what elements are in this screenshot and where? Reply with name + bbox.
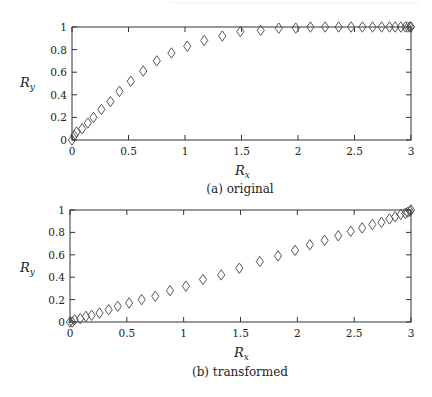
diamond-marker-icon [84,118,91,128]
y-tick-label: 0.2 [48,294,65,306]
plot-b-frame [70,210,411,322]
diamond-marker-icon [236,263,243,273]
figure: 00.511.522.53 00.20.40.60.81 Ry Rx (a) o… [0,0,432,397]
x-tick-label: 0.5 [120,145,137,157]
x-tick-label: 3 [408,145,415,157]
diamond-marker-icon [256,256,263,266]
diamond-marker-icon [274,251,281,261]
y-tick-label: 0.2 [50,111,67,123]
y-tick-label: 0 [58,316,65,328]
plot-b-markers [66,205,414,327]
plot-b-x-ticks: 00.511.522.53 [67,210,415,339]
x-tick-label: 1.5 [232,327,249,339]
y-tick-label: 0.8 [50,44,67,56]
diamond-marker-icon [184,41,191,51]
diamond-marker-icon [116,86,123,96]
diamond-marker-icon [182,281,189,291]
diamond-marker-icon [369,219,376,229]
diamond-marker-icon [201,35,208,45]
x-tick-label: 3 [408,327,415,339]
plot-a-x-ticks: 00.511.522.53 [69,27,415,157]
plot-b-caption: (b) transformed [192,365,288,379]
y-tick-label: 1 [58,204,65,216]
y-tick-label: 0.4 [50,89,67,101]
x-tick-label: 2.5 [346,327,363,339]
diamond-marker-icon [321,235,328,245]
diamond-marker-icon [359,223,366,233]
y-tick-label: 0.6 [50,66,67,78]
x-tick-label: 1 [182,145,189,157]
diamond-marker-icon [140,66,147,76]
x-tick-label: 1.5 [233,145,250,157]
diamond-marker-icon [114,301,121,311]
plot-a-y-ticks: 00.20.40.60.81 [50,21,411,146]
x-tick-label: 1 [180,327,187,339]
plot-b-y-axis-label: Ry [19,260,36,277]
x-tick-label: 0.5 [118,327,135,339]
diamond-marker-icon [153,56,160,66]
plot-a-markers [68,22,414,145]
x-tick-label: 2.5 [346,145,363,157]
x-tick-label: 2 [294,327,301,339]
plot-b-y-ticks: 00.20.40.60.81 [48,204,411,328]
plot-b: 00.511.522.53 00.20.40.60.81 Ry Rx (b) t… [19,204,415,379]
diamond-marker-icon [138,294,145,304]
plot-a-x-axis-label: Rx [234,163,250,180]
diamond-marker-icon [107,96,114,106]
y-tick-label: 1 [60,21,67,33]
diamond-marker-icon [126,298,133,308]
diamond-marker-icon [291,245,298,255]
diamond-marker-icon [306,240,313,250]
diamond-marker-icon [237,26,244,36]
diamond-marker-icon [275,23,282,33]
plot-a-y-axis-label: Ry [19,75,36,92]
diamond-marker-icon [152,291,159,301]
plot-a-frame [72,27,411,140]
x-tick-label: 0 [67,327,74,339]
diamond-marker-icon [218,270,225,280]
diamond-marker-icon [96,308,103,318]
diamond-marker-icon [199,274,206,284]
plot-a-caption: (a) original [206,182,274,196]
diamond-marker-icon [127,76,134,86]
diamond-marker-icon [90,112,97,122]
diamond-marker-icon [378,217,385,227]
y-tick-label: 0.8 [48,226,65,238]
plot-a: 00.511.522.53 00.20.40.60.81 Ry Rx (a) o… [19,21,415,196]
x-tick-label: 2 [295,145,302,157]
y-tick-label: 0.6 [48,249,65,261]
x-tick-label: 0 [69,145,76,157]
diamond-marker-icon [166,285,173,295]
diamond-marker-icon [168,48,175,58]
plot-b-x-axis-label: Rx [233,345,249,362]
diamond-marker-icon [98,104,105,114]
diamond-marker-icon [219,31,226,41]
y-tick-label: 0 [60,134,67,146]
diamond-marker-icon [105,304,112,314]
y-tick-label: 0.4 [48,271,65,283]
diamond-marker-icon [335,231,342,241]
diamond-marker-icon [347,226,354,236]
